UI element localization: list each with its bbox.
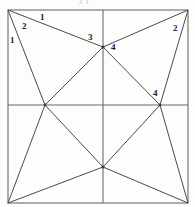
label-top-edge-1: 1 (40, 13, 45, 22)
square-border (8, 10, 188, 203)
node-bottom-dot (101, 165, 104, 168)
edge-br-to-bottom (103, 167, 188, 203)
label-top-node-4: 4 (111, 43, 116, 52)
edge-top-to-left (45, 47, 103, 105)
node-top-dot (101, 45, 104, 48)
diagonal-edges (8, 10, 188, 203)
node-left-dot (44, 104, 47, 107)
edge-bl-to-left (8, 105, 45, 203)
label-right-node-4: 4 (153, 89, 158, 98)
node-right-dot (159, 104, 162, 107)
label-left-edge-1: 1 (10, 36, 15, 45)
edge-top-to-right (103, 47, 160, 105)
label-top-node-3: 3 (88, 33, 93, 42)
edge-bottom-to-left (45, 105, 103, 167)
figure-canvas (0, 0, 195, 207)
edge-br-to-right (160, 105, 188, 203)
label-upper-left-2: 2 (22, 22, 27, 31)
geometry-figure: 3 1 1 2 1 3 4 2 4 (0, 0, 195, 207)
edge-bl-to-bottom (8, 167, 103, 203)
edge-bottom-to-right (103, 105, 160, 167)
label-top-right-2: 2 (173, 24, 178, 33)
